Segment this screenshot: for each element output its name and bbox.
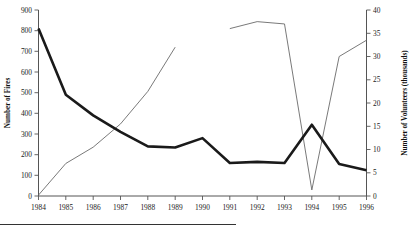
left-tick-label-500: 500: [21, 88, 32, 97]
x-tick-label-1993: 1993: [277, 203, 292, 212]
x-tick-label-1994: 1994: [304, 203, 319, 212]
right-axis-title: Number of Volunteers (thousands): [401, 50, 409, 156]
left-axis: 900 800 700 600 500 400 300 200 100 0 Nu…: [4, 6, 39, 201]
x-tick-label-1988: 1988: [140, 203, 155, 212]
series-line-volunteers: [39, 22, 367, 195]
left-tick-label-800: 800: [21, 26, 32, 35]
right-axis: 40 35 30 25 20 15 10 5 0 Number of Volun…: [367, 6, 410, 201]
x-tick-label-1992: 1992: [250, 203, 265, 212]
chart-canvas: 900 800 700 600 500 400 300 200 100 0 Nu…: [0, 0, 415, 236]
right-tick-label-5: 5: [373, 168, 377, 177]
left-tick-label-100: 100: [21, 171, 32, 180]
left-axis-title: Number of Fires: [4, 78, 12, 129]
x-tick-label-1989: 1989: [168, 203, 183, 212]
x-tick-label-1995: 1995: [332, 203, 347, 212]
right-tick-label-15: 15: [373, 122, 381, 131]
right-tick-label-0: 0: [373, 192, 377, 201]
x-tick-label-1996: 1996: [359, 203, 374, 212]
bottom-axis: 1984 1985 1986 1987 1988 1989 1990 1991 …: [31, 196, 374, 212]
left-tick-label-900: 900: [21, 6, 32, 15]
left-tick-label-700: 700: [21, 47, 32, 56]
right-tick-label-40: 40: [373, 6, 381, 15]
x-tick-label-1991: 1991: [222, 203, 237, 212]
x-tick-label-1985: 1985: [58, 203, 73, 212]
left-tick-label-0: 0: [28, 192, 32, 201]
left-tick-label-400: 400: [21, 109, 32, 118]
chart-figure: 900 800 700 600 500 400 300 200 100 0 Nu…: [0, 0, 415, 236]
right-tick-label-10: 10: [373, 145, 381, 154]
x-tick-label-1984: 1984: [31, 203, 46, 212]
left-tick-label-300: 300: [21, 130, 32, 139]
x-tick-label-1990: 1990: [195, 203, 210, 212]
right-tick-label-25: 25: [373, 75, 381, 84]
right-tick-label-30: 30: [373, 52, 381, 61]
x-tick-label-1986: 1986: [86, 203, 101, 212]
series-line-fires: [39, 29, 367, 171]
left-tick-label-600: 600: [21, 68, 32, 77]
right-tick-label-35: 35: [373, 29, 381, 38]
left-tick-label-200: 200: [21, 150, 32, 159]
right-tick-label-20: 20: [373, 99, 381, 108]
x-tick-label-1987: 1987: [113, 203, 128, 212]
